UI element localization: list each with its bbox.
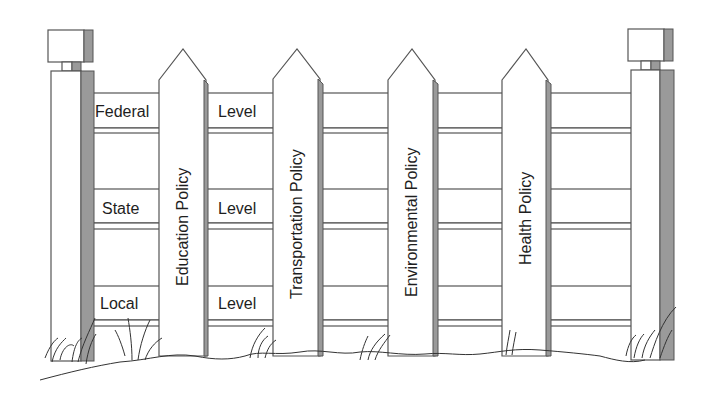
label-federal-level: Level xyxy=(218,103,256,120)
label-environmental-policy: Environmental Policy xyxy=(403,148,420,297)
label-health-policy: Health Policy xyxy=(517,172,534,265)
right-post xyxy=(628,29,674,360)
label-local: Local xyxy=(100,295,138,312)
label-transportation-policy: Transportation Policy xyxy=(288,149,305,299)
left-post xyxy=(48,30,94,361)
label-state-level: Level xyxy=(218,200,256,217)
fence-illustration: Federal Level State Level Local Level Ed… xyxy=(0,0,713,396)
fence-diagram: Federal Level State Level Local Level Ed… xyxy=(0,0,713,396)
ground-line xyxy=(40,349,645,380)
label-education-policy: Education Policy xyxy=(174,168,191,286)
label-state: State xyxy=(102,200,139,217)
label-local-level: Level xyxy=(218,295,256,312)
label-federal: Federal xyxy=(95,103,149,120)
